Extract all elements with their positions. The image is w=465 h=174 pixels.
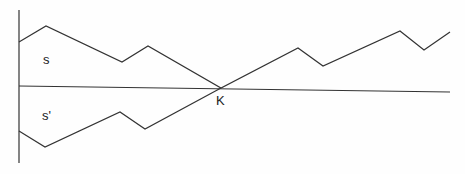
upper-zigzag-line (19, 26, 450, 88)
horizontal-axis (19, 86, 450, 92)
diagram-canvas: s s' K (0, 0, 465, 174)
diagram-lines (0, 0, 465, 174)
label-s: s (43, 52, 50, 67)
label-s-prime: s' (42, 108, 51, 123)
label-k: K (216, 93, 225, 108)
